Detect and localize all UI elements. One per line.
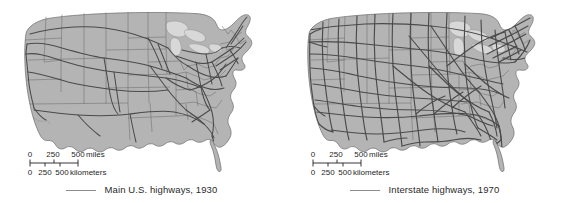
legend-line-swatch-1970 (350, 190, 380, 191)
map-panel-1970: 0 250 500 miles 0 250 500 kilometers Int… (283, 0, 566, 203)
scale-miles-tick-2: 500 (354, 150, 368, 159)
scale-miles-unit: miles (369, 150, 388, 159)
scale-km-tick-2: 500 (55, 168, 69, 177)
scalebar-1970: 0 250 500 miles 0 250 500 kilometers (311, 150, 390, 177)
us-map-1930: 0 250 500 miles 0 250 500 kilometers (0, 0, 283, 180)
legend-1970: Interstate highways, 1970 (283, 181, 566, 199)
map-panel-1930: 0 250 500 miles 0 250 500 kilometers Mai… (0, 0, 283, 203)
scale-miles-tick-2: 500 (71, 150, 85, 159)
scale-miles-unit: miles (86, 150, 105, 159)
legend-label-1930: Main U.S. highways, 1930 (105, 185, 218, 195)
scale-km-tick-2: 500 (338, 168, 352, 177)
scale-miles-tick-1: 250 (329, 150, 343, 159)
legend-line-swatch-1930 (66, 190, 96, 191)
scale-miles-tick-1: 250 (46, 150, 60, 159)
scalebar-1930: 0 250 500 miles 0 250 500 kilometers (28, 150, 107, 177)
scale-km-tick-0: 0 (311, 168, 316, 177)
us-map-1970: 0 250 500 miles 0 250 500 kilometers (283, 0, 566, 180)
scale-km-tick-1: 250 (38, 168, 52, 177)
scale-miles-tick-0: 0 (28, 150, 33, 159)
scale-km-unit: kilometers (353, 168, 389, 177)
scale-km-tick-1: 250 (321, 168, 335, 177)
scale-miles-tick-0: 0 (311, 150, 316, 159)
highway-comparison-figure: 0 250 500 miles 0 250 500 kilometers Mai… (0, 0, 566, 203)
landmass-1930 (25, 12, 252, 171)
legend-label-1970: Interstate highways, 1970 (389, 185, 500, 195)
scale-km-tick-0: 0 (28, 168, 33, 177)
legend-1930: Main U.S. highways, 1930 (0, 181, 283, 199)
scale-km-unit: kilometers (70, 168, 106, 177)
